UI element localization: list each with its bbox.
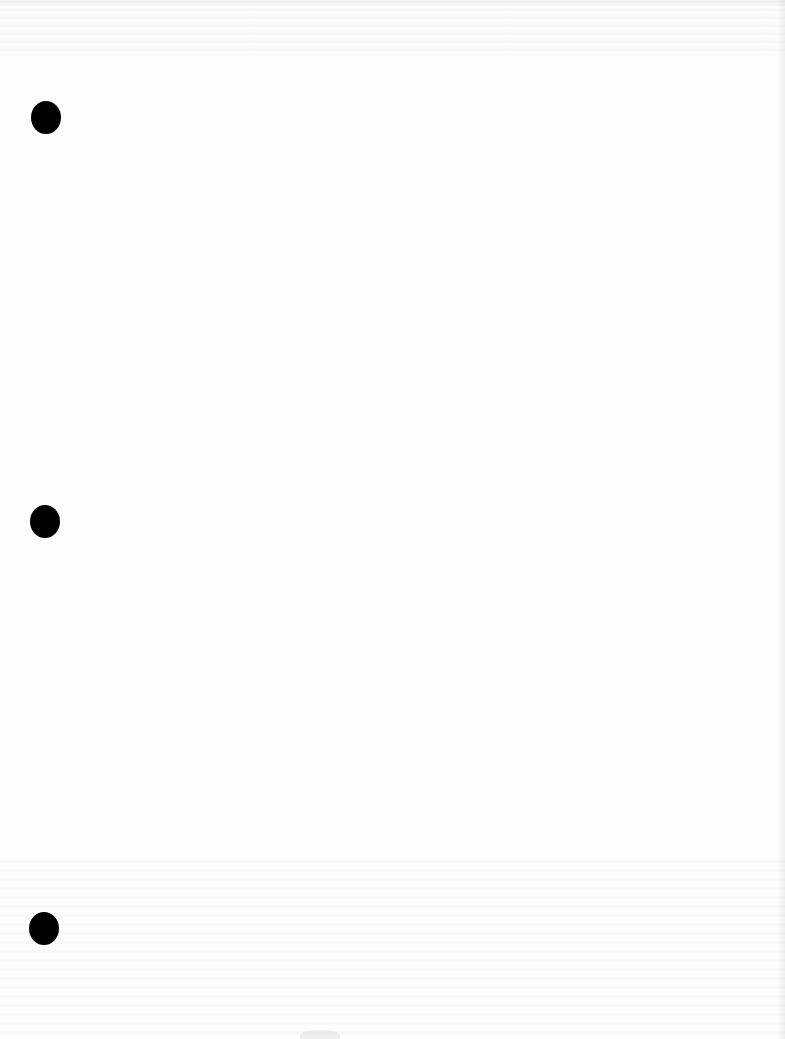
scan-bleed-through-bottom <box>0 860 785 1039</box>
right-edge-shadow <box>777 0 785 1039</box>
blank-page <box>0 0 785 1039</box>
punch-hole-bottom <box>29 912 59 945</box>
punch-hole-top <box>31 101 61 134</box>
scan-bleed-through-top <box>0 0 785 55</box>
scan-smudge <box>300 1030 340 1039</box>
punch-hole-middle <box>30 505 60 538</box>
